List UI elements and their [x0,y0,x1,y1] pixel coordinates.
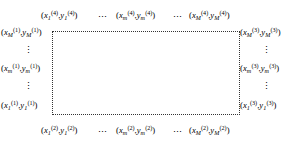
vertical-ellipsis-right-upper: ⋮ [262,46,271,55]
y-superscript: (2) [67,125,74,131]
paren-close: ) [35,100,38,110]
point-label-left-last: (x1(1),y1(1)) [1,101,37,110]
point-label-left-first: (xM(1),yM(1)) [1,28,42,37]
dotted-boundary-rectangle [52,31,240,115]
point-label-bottom-first: (x1(2),y1(2)) [41,126,77,135]
x-superscript: (1) [12,63,19,69]
y-variable: y [22,63,26,73]
paren-close: ) [152,10,155,20]
horizontal-ellipsis-bottom-left: ⋯ [98,128,108,137]
y-subscript: M [214,15,219,21]
y-variable: y [137,125,141,135]
point-label-right-middle: (xm(3),ym(3)) [240,64,279,73]
y-subscript: M [26,32,31,38]
point-label-top-last: (xM(4),yM(4)) [189,11,230,20]
horizontal-ellipsis-top-left: ⋯ [98,13,108,22]
point-label-left-middle: (xm(1),ym(1)) [1,64,40,73]
y-superscript: (4) [220,10,227,16]
point-label-top-first: (x1(4),y1(4)) [41,11,77,20]
x-superscript: (4) [127,10,134,16]
paren-close: ) [274,100,277,110]
paren-close: ) [227,10,230,20]
point-label-bottom-last: (xM(2),yM(2)) [189,126,230,135]
paren-close: ) [276,63,279,73]
y-subscript: M [265,32,270,38]
x-superscript: (2) [127,125,134,131]
point-label-right-first: (xM(3),yM(3)) [240,28,281,37]
y-superscript: (3) [266,100,273,106]
paren-close: ) [278,27,281,37]
y-superscript: (3) [271,27,278,33]
vertical-ellipsis-left-lower: ⋮ [24,82,33,91]
paren-close: ) [152,125,155,135]
paren-close: ) [37,63,40,73]
paren-close: ) [39,27,42,37]
horizontal-ellipsis-top-right: ⋯ [173,13,183,22]
point-label-top-middle: (xm(4),ym(4)) [116,11,155,20]
y-superscript: (1) [27,100,34,106]
paren-close: ) [75,10,78,20]
y-superscript: (4) [67,10,74,16]
point-label-right-last: (x1(3),y1(3)) [240,101,276,110]
vertical-ellipsis-left-upper: ⋮ [24,46,33,55]
y-superscript: (1) [32,27,39,33]
y-subscript: M [214,130,219,136]
x-superscript: (3) [251,63,258,69]
y-variable: y [261,63,265,73]
y-superscript: (2) [220,125,227,131]
paren-close: ) [75,125,78,135]
y-variable: y [137,10,141,20]
horizontal-ellipsis-bottom-right: ⋯ [173,128,183,137]
boundary-point-diagram: (x1(4),y1(4)) ⋯ (xm(4),ym(4)) ⋯ (xM(4),y… [0,0,293,145]
paren-close: ) [227,125,230,135]
point-label-bottom-middle: (xm(2),ym(2)) [116,126,155,135]
vertical-ellipsis-right-lower: ⋮ [262,82,271,91]
